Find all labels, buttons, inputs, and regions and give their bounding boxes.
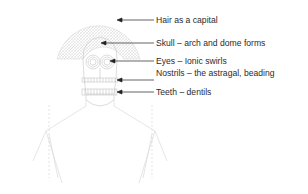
eye-swirls <box>86 55 114 69</box>
label-nostrils: Nostrils – the astragal, beading <box>156 68 274 78</box>
label-hair: Hair as a capital <box>156 15 218 25</box>
guide-lines <box>49 105 152 178</box>
label-skull: Skull – arch and dome forms <box>156 38 265 48</box>
label-teeth: Teeth – dentils <box>156 87 211 97</box>
torso-outline <box>33 100 167 183</box>
hair-dome <box>57 26 140 59</box>
anatomy-architecture-diagram: Hair as a capital Skull – arch and dome … <box>0 0 308 194</box>
label-eyes: Eyes – Ionic swirls <box>156 56 227 66</box>
astragal-band <box>82 78 118 82</box>
